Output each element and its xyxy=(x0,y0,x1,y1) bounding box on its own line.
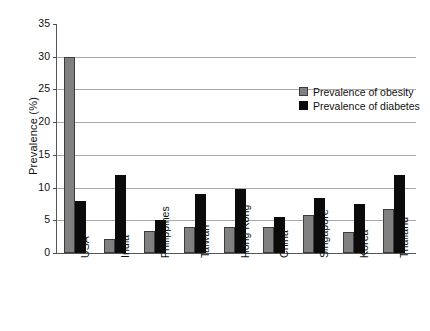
x-tick-label: Hong Kong xyxy=(239,205,251,258)
y-tick-label: 10 xyxy=(24,182,50,193)
bar-obesity xyxy=(383,209,394,253)
bar-group xyxy=(184,24,206,253)
bar-group xyxy=(64,24,86,253)
y-tick-label: 15 xyxy=(24,149,50,160)
bar-obesity xyxy=(224,227,235,253)
x-tick-label: Taiwan xyxy=(199,225,211,258)
y-tick-label: 30 xyxy=(24,51,50,62)
bar-obesity xyxy=(303,215,314,253)
x-tick-label: Singapore xyxy=(318,209,330,258)
x-tick-label: Korea xyxy=(358,229,370,258)
chart-legend: Prevalence of obesity Prevalence of diab… xyxy=(299,85,420,113)
plot-area xyxy=(57,24,416,253)
bar-group xyxy=(343,24,365,253)
legend-label-diabetes: Prevalence of diabetes xyxy=(313,100,420,112)
bar-chart: Prevalence (%) 05101520253035 USAIndiaPh… xyxy=(0,0,430,331)
bar-obesity xyxy=(64,57,75,253)
bar-obesity xyxy=(343,232,354,253)
x-tick-label: USA xyxy=(79,236,91,258)
x-tick-label: Thailand xyxy=(398,217,410,258)
bar-group xyxy=(263,24,285,253)
bar-obesity xyxy=(263,227,274,253)
bar-obesity xyxy=(184,227,195,253)
y-tick-label: 35 xyxy=(24,18,50,29)
y-tick-label: 0 xyxy=(24,247,50,258)
bar-obesity xyxy=(144,231,155,253)
legend-swatch-diabetes-icon xyxy=(299,101,308,110)
legend-swatch-obesity-icon xyxy=(299,87,308,96)
x-tick-label: Philippines xyxy=(159,206,171,258)
y-tick-label: 20 xyxy=(24,116,50,127)
legend-item-diabetes: Prevalence of diabetes xyxy=(299,99,420,112)
x-tick-label: India xyxy=(119,235,131,258)
y-tick-label: 5 xyxy=(24,214,50,225)
y-tick-label: 25 xyxy=(24,83,50,94)
bar-group xyxy=(104,24,126,253)
x-tick-label: China xyxy=(278,230,290,258)
legend-label-obesity: Prevalence of obesity xyxy=(313,86,413,98)
bar-obesity xyxy=(104,239,115,253)
legend-item-obesity: Prevalence of obesity xyxy=(299,85,420,98)
